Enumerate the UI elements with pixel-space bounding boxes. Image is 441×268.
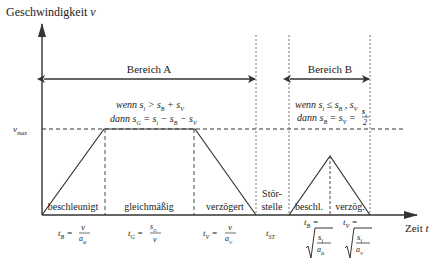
phase-verzoegert: verzögert <box>206 201 244 213</box>
sub: V <box>180 106 184 112</box>
phase-stoer-1: Stör- <box>262 188 282 200</box>
sub: i <box>361 238 363 244</box>
sub: G <box>131 234 135 240</box>
sub: B <box>307 223 311 229</box>
vmax-subscript: max <box>17 130 27 136</box>
sub: B <box>83 240 86 245</box>
cond-text: > s <box>145 99 161 110</box>
phase-stoer-2: stelle <box>261 201 282 213</box>
formula-tb-num: v <box>81 221 85 233</box>
cond-text: = s <box>141 113 157 124</box>
cond-text: = <box>346 112 355 123</box>
phase-beschleunigt: beschleunigt <box>48 201 99 213</box>
eq: = <box>66 228 72 238</box>
phase-beschl: beschl. <box>295 201 323 213</box>
bereich-a-condition-2: dann sG = si − sB − sV <box>110 113 197 129</box>
cond-text: − s <box>177 113 193 124</box>
formula-b-tb: tB = <box>304 216 319 232</box>
sub: V <box>193 120 197 126</box>
formula-tv: tV = <box>203 227 218 243</box>
cond-text: , s <box>342 99 353 110</box>
sub: i <box>322 238 324 244</box>
phase-verzoeg: verzög. <box>335 201 365 213</box>
sub: ST <box>269 234 275 240</box>
cond-text: = s <box>327 112 343 123</box>
formula-b-tb-den: aB <box>317 244 324 260</box>
y-axis-variable: v <box>90 5 95 19</box>
cond-text: ≤ s <box>324 99 338 110</box>
sub: B <box>321 251 324 256</box>
sub: V <box>360 251 363 256</box>
formula-b-tv: tV = <box>343 216 358 232</box>
vmax-label: vmax <box>13 123 27 139</box>
sub: B <box>61 234 65 240</box>
cond-text: + s <box>164 99 180 110</box>
formula-tv-den: aV <box>225 233 232 249</box>
formula-tg: tG = <box>128 227 143 243</box>
y-axis-label: Geschwindigkeit v <box>6 6 96 18</box>
cond-text: wenn s <box>116 99 144 110</box>
cond-text: dann s <box>297 112 323 123</box>
sub: G <box>153 228 157 233</box>
eq: = <box>137 228 143 238</box>
frac-den-2: 2 <box>363 117 367 129</box>
sub: V <box>229 240 232 245</box>
cond-text: dann s <box>110 113 136 124</box>
bereich-a-label: Bereich A <box>127 63 171 75</box>
formula-tg-den: v <box>153 234 157 246</box>
formula-b-tv-den: aV <box>356 244 363 260</box>
x-axis-variable: t <box>425 222 428 234</box>
sub: V <box>206 234 210 240</box>
x-axis-label: Zeit t <box>405 222 429 234</box>
phase-gleichmaessig: gleichmäßig <box>124 201 173 213</box>
formula-tv-num: v <box>228 221 232 233</box>
x-axis-label-text: Zeit <box>405 222 425 234</box>
cond-text: − s <box>158 113 174 124</box>
sub: V <box>346 223 350 229</box>
eq: = <box>211 228 217 238</box>
formula-tb: tB = <box>58 227 73 243</box>
y-axis-label-text: Geschwindigkeit <box>6 5 90 19</box>
formula-tst: tST <box>266 227 275 243</box>
eq: = <box>351 217 357 227</box>
formula-tb-den: aB <box>79 233 86 249</box>
bereich-b-condition-2: dann sB = sV = <box>297 112 356 128</box>
bereich-b-label: Bereich B <box>308 63 352 75</box>
eq: = <box>312 217 318 227</box>
cond-text: wenn s <box>295 99 323 110</box>
